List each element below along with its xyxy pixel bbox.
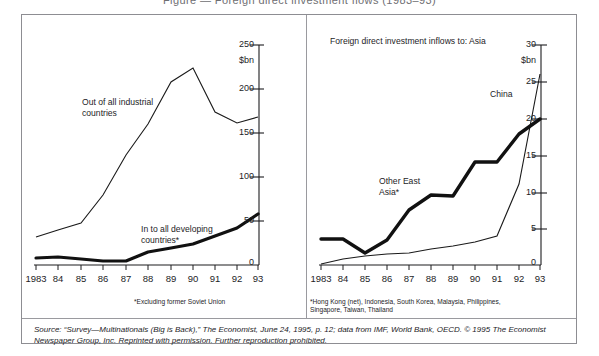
left-ytick-250: 250 [210, 39, 254, 49]
left-ytick-50: 50 [210, 215, 254, 225]
left-axis-unit: $bn [210, 55, 254, 65]
chart-left: 250 $bn 200 150 100 50 0 Out of all indu… [24, 15, 299, 292]
source-divider [22, 318, 576, 319]
right-xtick-91: 91 [485, 273, 509, 284]
right-xtick-86: 86 [375, 273, 399, 284]
left-footnote: *Excluding former Soviet Union [134, 298, 225, 306]
right-xtick-84: 84 [331, 273, 355, 284]
left-ytick-100: 100 [210, 171, 254, 181]
left-label-in-developing: In to all developingcountries* [141, 224, 213, 245]
right-ytick-15: 15 [493, 150, 536, 160]
right-axis-unit: $bn [493, 55, 536, 65]
left-label-out-industrial: Out of all industrialcountries [82, 97, 153, 118]
left-ytick-0: 0 [210, 257, 254, 267]
left-xtick-91: 91 [203, 273, 227, 284]
left-xtick-87: 87 [114, 273, 138, 284]
right-label-china: China [490, 89, 512, 100]
left-xtick-93: 93 [246, 273, 270, 284]
right-ytick-5: 5 [493, 223, 536, 233]
left-xtick-88: 88 [136, 273, 160, 284]
left-ytick-150: 150 [210, 127, 254, 137]
left-xtick-89: 89 [159, 273, 183, 284]
right-xtick-85: 85 [353, 273, 377, 284]
cutoff-header: Figure — Foreign direct investment flows… [0, 0, 599, 9]
right-footnote: *Hong Kong (net), Indonesia, South Korea… [310, 298, 501, 315]
right-xtick-88: 88 [419, 273, 443, 284]
left-chart-svg [24, 15, 299, 292]
figure-frame: 250 $bn 200 150 100 50 0 Out of all indu… [21, 14, 577, 344]
right-ytick-25: 25 [493, 76, 536, 86]
left-ytick-200: 200 [210, 83, 254, 93]
source-note: Source: “Survey—Multinationals (Big is B… [34, 324, 566, 347]
right-ytick-10: 10 [493, 187, 536, 197]
right-xtick-87: 87 [397, 273, 421, 284]
charts-area: 250 $bn 200 150 100 50 0 Out of all indu… [22, 15, 576, 292]
right-label-other-east-asia: Other EastAsia* [379, 176, 420, 197]
left-xtick-85: 85 [69, 273, 93, 284]
chart-right: Foreign direct investment inflows to: As… [307, 15, 576, 292]
right-xtick-90: 90 [463, 273, 487, 284]
series-china [321, 74, 540, 264]
left-xtick-84: 84 [46, 273, 70, 284]
right-ytick-20: 20 [493, 113, 536, 123]
left-xtick-90: 90 [181, 273, 205, 284]
right-ytick-30: 30 [493, 39, 536, 49]
right-y-tickmarks [532, 45, 547, 229]
right-xtick-93: 93 [528, 273, 552, 284]
left-xtick-86: 86 [91, 273, 115, 284]
right-ytick-0: 0 [493, 257, 536, 267]
right-xtick-89: 89 [441, 273, 465, 284]
series-out-industrial [36, 68, 258, 237]
